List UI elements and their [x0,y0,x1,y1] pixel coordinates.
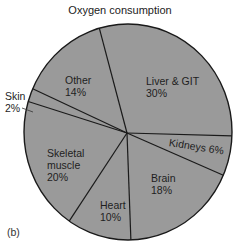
label-brain: Brain 18% [151,172,176,196]
label-liver: Liver & GIT 30% [146,75,199,99]
pie-body [24,24,232,240]
label-other: Other 14% [65,74,91,98]
label-skeletal: Skeletal muscle 20% [47,147,84,183]
label-skin: Skin 2% [5,90,25,114]
label-heart: Heart 10% [100,199,126,223]
panel-label: (b) [7,226,20,238]
